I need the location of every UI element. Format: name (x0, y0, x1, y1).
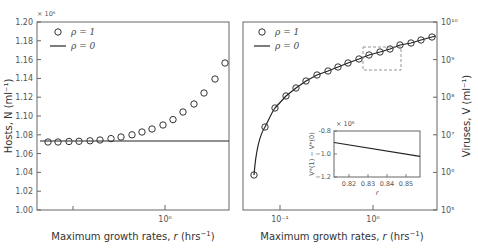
right-x-ticks (280, 205, 373, 210)
y-multiplier: × 10⁶ (37, 10, 56, 18)
left-y-ticks (37, 22, 41, 210)
tick-label: 10⁹ (441, 56, 454, 65)
right-y-axis-label: Viruses, V (ml⁻¹) (461, 75, 472, 158)
tick-label: 10¹⁰ (441, 18, 458, 27)
legend-circle-icon (259, 29, 265, 35)
right-panel: 10⁵ 10⁶ 10⁷ 10⁸ 10⁹ 10¹⁰ Viruses, V (ml⁻… (243, 18, 472, 242)
tick-label: 1.02 (15, 187, 33, 196)
tick-label: 10⁷ (441, 131, 454, 140)
tick-label: 0.85 (399, 180, 413, 188)
tick-label: 10⁵ (441, 206, 454, 215)
legend-circle-icon (55, 29, 61, 35)
tick-label: 10⁸ (441, 93, 454, 102)
inset-y-label: V*(1) − V*(0) (308, 132, 316, 175)
tick-label: 0.83 (361, 180, 375, 188)
tick-label: 1.04 (15, 168, 33, 177)
tick-label: 10⁰ (366, 215, 379, 224)
left-y-axis-label: Hosts, N (ml⁻¹) (3, 79, 14, 154)
tick-label: 0.82 (342, 180, 356, 188)
tick-label: -0.8 (318, 127, 331, 135)
inset-plot: × 10⁸ -0.8 −1.0 −1.2 0.82 0.83 0.84 0.85… (308, 120, 420, 197)
left-x-axis-label: Maximum growth rates, r (hrs−1) (51, 230, 215, 242)
left-x-ticks (73, 205, 165, 210)
tick-label: −1.0 (315, 150, 331, 158)
inset-x-label: r (376, 189, 380, 197)
tick-label: 1.10 (15, 112, 33, 121)
tick-label: 1.06 (15, 150, 33, 159)
tick-label: 10⁰ (158, 215, 171, 224)
right-legend: ρ = 1 ρ = 0 (254, 27, 300, 51)
right-x-axis-label: Maximum growth rates, r (hrs−1) (260, 230, 424, 242)
inset-multiplier: × 10⁸ (336, 120, 355, 128)
tick-label: 1.08 (15, 131, 33, 140)
left-panel: 1.00 1.02 1.04 1.06 1.08 1.10 1.12 1.14 … (3, 10, 229, 242)
tick-label: 1.16 (15, 56, 33, 65)
left-plot-frame (37, 22, 229, 210)
tick-label: 1.20 (15, 18, 33, 27)
legend-label: ρ = 0 (70, 41, 96, 51)
rho1-markers (45, 60, 228, 145)
tick-label: −1.2 (315, 173, 331, 181)
right-y-ticks (433, 22, 437, 210)
legend-label: ρ = 0 (274, 41, 300, 51)
figure: 1.00 1.02 1.04 1.06 1.08 1.10 1.12 1.14 … (0, 0, 478, 248)
tick-label: 10⁻¹ (271, 215, 289, 224)
tick-label: 10⁶ (441, 168, 454, 177)
tick-label: 1.14 (15, 74, 33, 83)
right-y-tick-labels: 10⁵ 10⁶ 10⁷ 10⁸ 10⁹ 10¹⁰ (441, 18, 458, 215)
left-legend: ρ = 1 ρ = 0 (50, 27, 96, 51)
tick-label: 1.12 (15, 93, 33, 102)
legend-label: ρ = 1 (70, 27, 95, 37)
tick-label: 1.00 (15, 206, 33, 215)
legend-label: ρ = 1 (274, 27, 299, 37)
tick-label: 1.18 (15, 37, 33, 46)
tick-label: 0.84 (380, 180, 394, 188)
left-y-tick-labels: 1.00 1.02 1.04 1.06 1.08 1.10 1.12 1.14 … (15, 18, 33, 215)
